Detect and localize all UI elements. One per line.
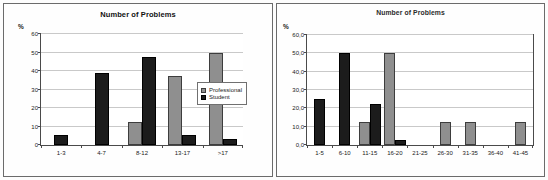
bar-professional-8-12 (128, 122, 142, 145)
right-chart-title: Number of Problems (277, 9, 544, 16)
y-axis-tick-label: 30,0 (292, 87, 304, 93)
y-axis-tick-label: 40 (31, 68, 38, 74)
bar-student-4-7 (95, 73, 109, 145)
y-axis-tick-mark (38, 126, 41, 127)
right-plot-area: 0,010,020,030,040,050,060,01-56-1011-151… (306, 34, 534, 146)
y-axis-tick-label: 20,0 (292, 105, 304, 111)
x-axis-tick-mark (81, 145, 82, 148)
legend-label-professional: Professional (209, 87, 242, 93)
y-axis-tick-mark (38, 70, 41, 71)
x-axis-tick-label: 31-35 (463, 150, 478, 156)
x-axis-tick-label: 36-40 (488, 150, 503, 156)
y-axis-tick-mark (38, 89, 41, 90)
legend-swatch-student (201, 95, 206, 100)
x-axis-tick-label: 16-20 (387, 150, 402, 156)
x-axis-tick-mark (532, 145, 533, 148)
y-axis-tick-mark (304, 89, 307, 90)
bar-professional-31-35 (465, 122, 476, 145)
y-axis-tick-label: 60,0 (292, 32, 304, 38)
y-axis-tick-mark (304, 52, 307, 53)
x-axis-tick-mark (357, 145, 358, 148)
left-y-axis-unit-label: % (18, 23, 24, 30)
x-axis-tick-label: 1-5 (315, 150, 324, 156)
x-axis-tick-label: 13-17 (175, 150, 190, 156)
bar-student-16-20 (395, 140, 406, 146)
y-axis-tick-label: 30 (31, 87, 38, 93)
gridline (307, 34, 533, 35)
x-axis-tick-mark (458, 145, 459, 148)
x-axis-tick-label: 21-25 (412, 150, 427, 156)
x-axis-tick-label: 1-3 (57, 150, 66, 156)
chart-legend: Professional Student (197, 82, 247, 105)
x-axis-tick-label: 41-45 (513, 150, 528, 156)
x-axis-tick-label: >17 (218, 150, 228, 156)
x-axis-tick-mark (122, 145, 123, 148)
bar-professional-41-45 (515, 122, 526, 145)
chart-panel-right: Number of Problems % 0,010,020,030,040,0… (276, 3, 545, 177)
gridline (41, 33, 243, 34)
bar-student-13-17 (182, 135, 196, 145)
bar-professional-11-15 (359, 122, 370, 145)
x-axis-tick-mark (41, 145, 42, 148)
right-y-axis-unit-label: % (283, 23, 289, 30)
x-axis-tick-mark (307, 145, 308, 148)
y-axis-tick-label: 40,0 (292, 69, 304, 75)
y-axis-tick-label: 20 (31, 105, 38, 111)
bar-student->17 (223, 139, 237, 145)
x-axis-tick-mark (242, 145, 243, 148)
y-axis-tick-mark (38, 107, 41, 108)
legend-label-student: Student (209, 94, 230, 100)
bar-professional-13-17 (168, 76, 182, 145)
bar-student-1-5 (314, 99, 325, 145)
bar-student-6-10 (339, 53, 350, 145)
y-axis-tick-label: 50,0 (292, 50, 304, 56)
x-axis-tick-mark (433, 145, 434, 148)
y-axis-tick-mark (38, 52, 41, 53)
x-axis-tick-mark (382, 145, 383, 148)
y-axis-tick-mark (304, 107, 307, 108)
y-axis-tick-mark (38, 33, 41, 34)
y-axis-tick-label: 10 (31, 124, 38, 130)
y-axis-tick-label: 0 (35, 142, 38, 148)
x-axis-tick-mark (483, 145, 484, 148)
y-axis-tick-label: 10,0 (292, 124, 304, 130)
x-axis-tick-mark (508, 145, 509, 148)
y-axis-tick-label: 0,0 (296, 142, 304, 148)
bar-student-8-12 (142, 57, 156, 145)
bar-student-1-3 (54, 135, 68, 145)
legend-item-professional: Professional (201, 87, 242, 93)
x-axis-tick-label: 26-30 (437, 150, 452, 156)
chart-panel-left: Number of Problems % 01020304050601-34-7… (3, 3, 273, 177)
bar-professional-16-20 (384, 53, 395, 145)
y-axis-tick-mark (304, 71, 307, 72)
x-axis-tick-mark (332, 145, 333, 148)
y-axis-tick-mark (304, 126, 307, 127)
y-axis-tick-label: 50 (31, 50, 38, 56)
legend-swatch-professional (201, 88, 206, 93)
x-axis-tick-mark (162, 145, 163, 148)
bar-student-11-15 (370, 104, 381, 145)
x-axis-tick-label: 4-7 (97, 150, 106, 156)
bar-professional-26-30 (440, 122, 451, 145)
figure-sheet: Number of Problems % 01020304050601-34-7… (0, 0, 548, 180)
left-chart-title: Number of Problems (4, 10, 272, 19)
y-axis-tick-label: 60 (31, 31, 38, 37)
legend-item-student: Student (201, 94, 242, 100)
x-axis-tick-mark (407, 145, 408, 148)
x-axis-tick-label: 8-12 (136, 150, 148, 156)
x-axis-tick-label: 6-10 (339, 150, 351, 156)
x-axis-tick-label: 11-15 (362, 150, 377, 156)
x-axis-tick-mark (203, 145, 204, 148)
y-axis-tick-mark (304, 34, 307, 35)
